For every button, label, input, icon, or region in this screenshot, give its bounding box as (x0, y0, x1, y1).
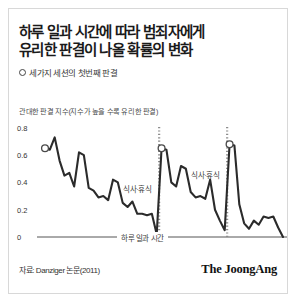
marker-session-1-first-ruling (42, 145, 49, 152)
header: 하루 일과 시간에 따라 범죄자에게 유리한 판결이 나올 확률의 변화 세가지… (19, 23, 281, 78)
page-title-line-2: 유리한 판결이 나올 확률의 변화 (19, 41, 281, 59)
marker-session-3-first-ruling (226, 141, 233, 148)
annotation-break-1: 식사·휴식 (123, 183, 152, 194)
annotation-break-2: 식사·휴식 (191, 169, 220, 180)
marker-session-2-first-ruling (158, 145, 165, 152)
page-title-line-1: 하루 일과 시간에 따라 범죄자에게 (19, 23, 281, 41)
data-line (45, 137, 283, 237)
chart-legend: 세가지 세션의 첫번째 판결 (19, 66, 281, 78)
hollow-circle-icon (19, 69, 26, 76)
footer: 자료: Danziger 논문(2011) The JoongAng (19, 262, 277, 277)
source-credit: 자료: Danziger 논문(2011) (19, 264, 100, 275)
infographic-card: 하루 일과 시간에 따라 범죄자에게 유리한 판결이 나올 확률의 변화 세가지… (8, 8, 288, 294)
brand-logo: The JoongAng (201, 262, 277, 277)
chart-legend-label: 세가지 세션의 첫번째 판결 (29, 66, 117, 78)
x-axis-label: 하루 일과 시간 (117, 232, 168, 243)
chart-plot-area: 0.80.60.40.20 식사·휴식식사·휴식하루 일과 시간 (9, 113, 288, 259)
